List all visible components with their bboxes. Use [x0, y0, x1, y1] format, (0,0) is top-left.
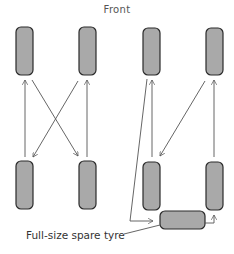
tyre-rear-right-1: [79, 161, 96, 209]
tyre-spare: [160, 211, 205, 229]
front-label: Front: [0, 4, 234, 15]
tyre-rear-left-2: [143, 162, 160, 210]
pattern-1: [16, 27, 96, 209]
tyre-rear-left-1: [16, 161, 33, 209]
pattern-2: [124, 28, 223, 234]
spare-tyre-label: Full-size spare tyre: [26, 229, 125, 241]
arrow-fl-to-rr-1: [32, 80, 78, 156]
diagram-canvas: [0, 0, 234, 254]
arrow-fr-to-rl-2: [160, 81, 205, 156]
tyre-front-left-1: [16, 27, 33, 75]
spare-label-leader: [124, 225, 160, 234]
arrow-spare-to-rr: [205, 215, 214, 223]
tyre-rotation-diagram: Front: [0, 0, 234, 254]
tyre-rear-right-2: [206, 162, 223, 210]
tyre-front-right-1: [79, 27, 96, 75]
tyre-front-right-2: [206, 28, 223, 75]
tyre-front-left-2: [143, 28, 160, 75]
